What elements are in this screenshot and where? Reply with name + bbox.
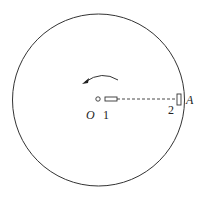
label-o: O <box>86 109 95 121</box>
center-point-o <box>96 97 100 101</box>
label-1: 1 <box>103 109 109 121</box>
block-1 <box>105 97 117 101</box>
block-2 <box>177 94 181 105</box>
label-a: A <box>186 94 193 106</box>
rotation-arrow-icon <box>82 75 118 84</box>
diagram-canvas <box>0 0 207 197</box>
disk-outline <box>13 14 185 186</box>
label-2: 2 <box>168 104 174 116</box>
